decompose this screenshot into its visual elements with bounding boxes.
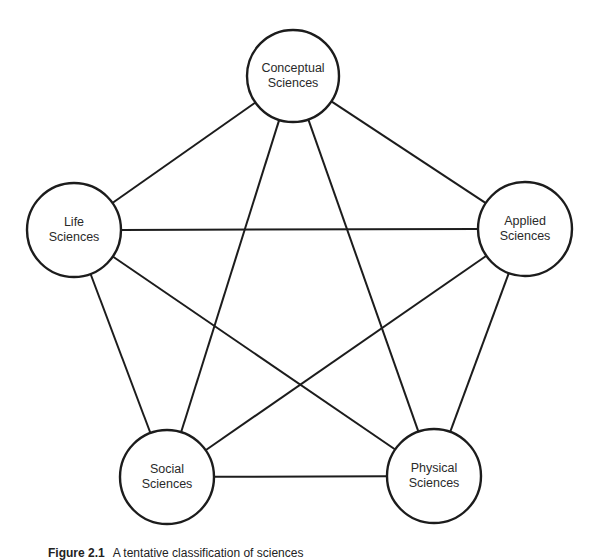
edge-conceptual-social [181,120,279,432]
node-label-line2: Sciences [384,476,484,491]
node-label-line2: Sciences [243,76,343,91]
node-label-conceptual: ConceptualSciences [243,61,343,91]
figure-caption: Figure 2.1A tentative classification of … [48,546,303,560]
edge-applied-social [206,256,487,450]
node-label-applied: AppliedSciences [475,214,575,244]
node-label-line2: Sciences [24,230,124,245]
edge-conceptual-life [112,103,255,204]
edge-life-social [91,274,151,433]
node-label-physical: PhysicalSciences [384,461,484,491]
node-label-line1: Life [24,215,124,230]
edge-social-physical [214,476,387,477]
edge-conceptual-physical [308,119,418,431]
node-label-line1: Conceptual [243,61,343,76]
edge-layer [91,101,509,477]
figure-number: Figure 2.1 [48,546,105,560]
node-label-line1: Applied [475,214,575,229]
node-label-line1: Social [117,462,217,477]
node-label-line1: Physical [384,461,484,476]
node-label-life: LifeSciences [24,215,124,245]
edge-life-applied [121,229,478,230]
edge-conceptual-applied [331,101,485,203]
caption-text: A tentative classification of sciences [113,546,304,560]
node-label-line2: Sciences [117,477,217,492]
edge-applied-physical [450,273,509,432]
node-label-line2: Sciences [475,229,575,244]
node-label-social: SocialSciences [117,462,217,492]
node-layer [27,30,572,524]
edge-life-physical [113,257,395,450]
